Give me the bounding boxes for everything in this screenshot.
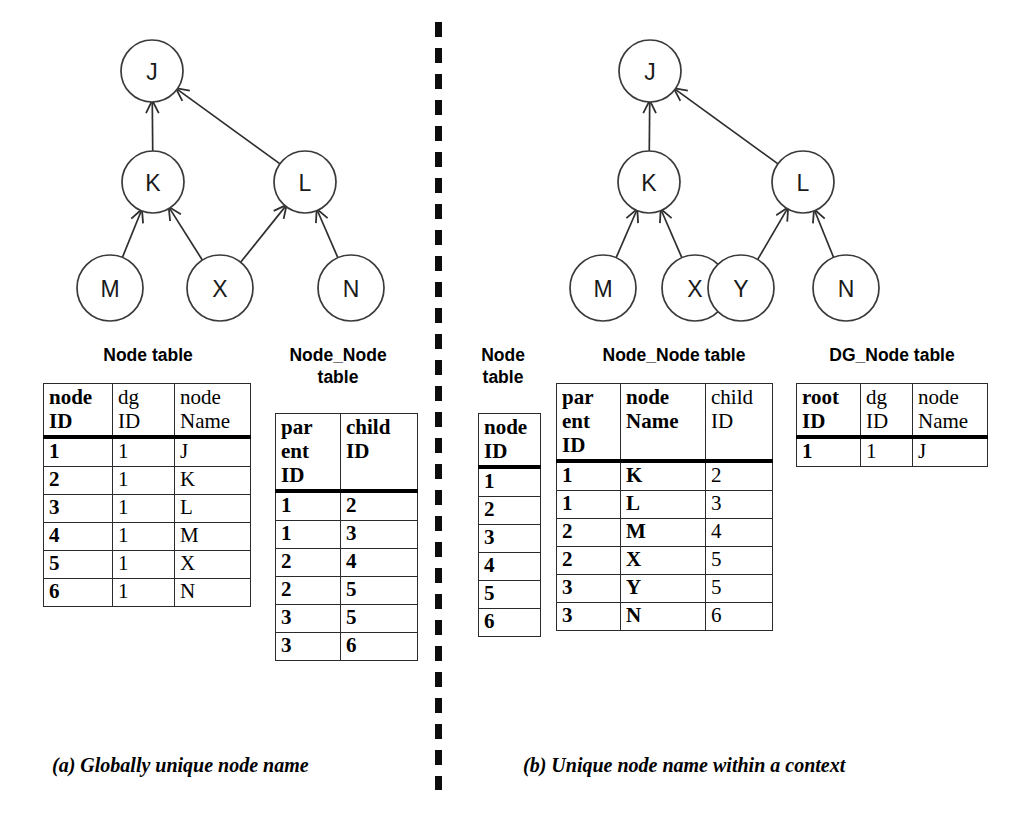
left-node-col-header: node ID xyxy=(44,384,113,438)
table-row: 2M4 xyxy=(557,519,773,547)
table-cell: 5 xyxy=(44,551,113,579)
table-cell: 3 xyxy=(479,525,541,553)
table-cell: Y xyxy=(621,575,706,603)
left-graph-edge-M-to-K xyxy=(122,210,142,259)
right-graph-edge-X-to-K xyxy=(661,210,682,259)
right-graph-edge-M-to-K xyxy=(616,210,637,259)
right-dg-node-col-header: dg ID xyxy=(861,384,913,438)
left-node-col-header-label: node Name xyxy=(180,385,246,433)
left-node-node-col-header-label: child ID xyxy=(346,415,413,463)
table-row: 5 xyxy=(479,581,541,609)
table-row: 6 xyxy=(479,609,541,637)
table-cell: 2 xyxy=(276,577,341,605)
left-node-node-col-header: par ent ID xyxy=(276,414,341,492)
graph-left: JKLMXN xyxy=(77,40,384,321)
table-row: 4 xyxy=(479,553,541,581)
table-cell: 1 xyxy=(797,437,861,467)
left-graph-edge-X-to-K xyxy=(169,207,203,261)
right-node-node-col-header-label: node Name xyxy=(626,385,701,433)
table-row: 21K xyxy=(44,467,251,495)
table-cell: 3 xyxy=(557,575,621,603)
left-node-node-table: par ent IDchild ID121324253536 xyxy=(275,413,418,661)
table-cell: 1 xyxy=(113,437,175,467)
table-cell: K xyxy=(621,461,706,491)
left-graph-node-label-N: N xyxy=(343,276,360,302)
panel-divider xyxy=(435,22,442,790)
table-cell: L xyxy=(621,491,706,519)
right-graph-edge-Y-to-L xyxy=(757,208,788,260)
table-row: 51X xyxy=(44,551,251,579)
right-node-header-row: node ID xyxy=(479,414,541,468)
left-node-col-header: dg ID xyxy=(113,384,175,438)
table-cell: N xyxy=(175,579,251,607)
table-cell: 2 xyxy=(706,461,773,491)
right-graph-node-label-N: N xyxy=(838,276,855,302)
right-node-node-col-header-label: child ID xyxy=(711,385,768,433)
table-cell: 2 xyxy=(276,549,341,577)
table-row: 1L3 xyxy=(557,491,773,519)
right-dg-node-table-title: DG_Node table xyxy=(796,344,988,366)
table-row: 36 xyxy=(276,633,418,661)
right-node-col-header-label: node ID xyxy=(484,415,536,463)
table-cell: 5 xyxy=(706,575,773,603)
table-row: 35 xyxy=(276,605,418,633)
right-node-node-table-title: Node_Node table xyxy=(556,344,792,366)
right-graph-node-label-L: L xyxy=(797,170,810,196)
table-row: 3N6 xyxy=(557,603,773,631)
table-cell: 4 xyxy=(44,523,113,551)
table-cell: 5 xyxy=(341,577,418,605)
right-graph-node-label-M: M xyxy=(593,276,612,302)
table-cell: 2 xyxy=(44,467,113,495)
left-graph-node-label-J: J xyxy=(146,59,158,85)
right-dg-node-col-header: root ID xyxy=(797,384,861,438)
left-graph-edge-N-to-L xyxy=(317,210,338,259)
right-dg-node-col-header: node Name xyxy=(913,384,988,438)
right-graph-edge-L-to-J xyxy=(674,89,778,165)
table-cell: 4 xyxy=(706,519,773,547)
table-row: 31L xyxy=(44,495,251,523)
table-cell: 5 xyxy=(706,547,773,575)
right-node-node-col-header: child ID xyxy=(706,384,773,462)
right-node-node-col-header: par ent ID xyxy=(557,384,621,462)
table-cell: 1 xyxy=(479,467,541,497)
left-node-col-header-label: dg ID xyxy=(118,385,170,433)
table-cell: 2 xyxy=(341,491,418,521)
right-dg-node-col-header-label: node Name xyxy=(918,385,983,433)
right-graph-node-label-X: X xyxy=(687,276,702,302)
table-cell: 3 xyxy=(276,605,341,633)
table-cell: 1 xyxy=(557,461,621,491)
table-cell: 6 xyxy=(706,603,773,631)
table-cell: 1 xyxy=(113,579,175,607)
left-graph-node-label-L: L xyxy=(299,170,312,196)
table-cell: J xyxy=(913,437,988,467)
left-node-node-col-header-label: par ent ID xyxy=(281,415,336,487)
table-row: 1K2 xyxy=(557,461,773,491)
left-node-col-header: node Name xyxy=(175,384,251,438)
table-row: 1 xyxy=(479,467,541,497)
right-node-node-col-header: node Name xyxy=(621,384,706,462)
table-row: 61N xyxy=(44,579,251,607)
table-cell: K xyxy=(175,467,251,495)
right-node-table: node ID123456 xyxy=(478,413,541,637)
left-node-node-col-header: child ID xyxy=(341,414,418,492)
table-cell: N xyxy=(621,603,706,631)
right-graph-node-label-J: J xyxy=(644,59,656,85)
table-cell: 3 xyxy=(276,633,341,661)
table-row: 3Y5 xyxy=(557,575,773,603)
right-dg-node-table: root IDdg IDnode Name11J xyxy=(796,383,988,467)
left-graph-node-label-K: K xyxy=(145,170,161,196)
left-node-col-header-label: node ID xyxy=(49,385,108,433)
table-cell: 1 xyxy=(113,495,175,523)
graph-diagrams: JKLMXN JKLMXYN xyxy=(0,0,1034,340)
right-graph-node-label-Y: Y xyxy=(733,276,748,302)
right-node-node-col-header-label: par ent ID xyxy=(562,385,616,457)
table-cell: 4 xyxy=(479,553,541,581)
left-node-table-title: Node table xyxy=(58,344,238,366)
table-cell: 1 xyxy=(276,521,341,549)
left-node-node-table-title: Node_Node table xyxy=(258,344,418,388)
table-cell: 4 xyxy=(341,549,418,577)
left-graph-edge-L-to-J xyxy=(176,89,280,165)
right-dg-node-col-header-label: root ID xyxy=(802,385,856,433)
table-row: 2X5 xyxy=(557,547,773,575)
table-cell: 1 xyxy=(113,551,175,579)
